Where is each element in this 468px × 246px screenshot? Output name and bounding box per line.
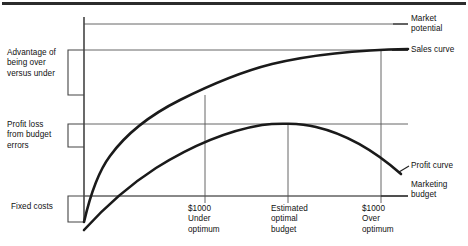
label-market-potential: Market potential (411, 14, 467, 35)
bracket-advantage (68, 50, 84, 95)
label-profit-loss-from-budget-errors: Profit loss from budget errors (7, 120, 69, 151)
leader-profit-curve (399, 166, 409, 172)
x-tick-label-over-optimum: $1000 Over optimum (362, 204, 428, 235)
chart-figure: Advantage of being over versus under Pro… (0, 0, 468, 246)
label-advantage-of-being-over: Advantage of being over versus under (7, 48, 69, 79)
x-tick-label-estimated-optimal-budget: Estimated optimal budget (271, 204, 341, 235)
label-sales-curve: Sales curve (411, 45, 468, 55)
x-tick-label-under-optimum: $1000 Under optimum (188, 204, 254, 235)
label-fixed-costs: Fixed costs (11, 202, 73, 212)
label-profit-curve: Profit curve (411, 161, 468, 171)
bracket-profit-loss (68, 124, 84, 147)
label-marketing-budget: Marketing budget (411, 180, 467, 201)
